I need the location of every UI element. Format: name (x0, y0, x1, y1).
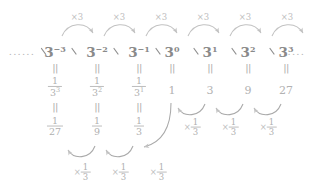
value-3: 3 (207, 85, 214, 96)
equals-top-6: || (245, 63, 251, 73)
fraction-denominator: 31 (132, 86, 146, 98)
power-exponent: 1 (212, 44, 218, 54)
power-base: 3 (203, 44, 212, 60)
power-exponent: −1 (138, 44, 150, 54)
equals-top-2: || (94, 63, 100, 73)
fraction-1-over-3-first: 1 31 (132, 76, 146, 98)
arrow-mul3-3-label: ×3 (155, 13, 168, 22)
power-3-3: 33 (279, 45, 294, 60)
value-numerator: 1 (134, 116, 144, 126)
power-3-neg1: 3−1 (128, 45, 150, 60)
arrow-div3-l3-label: × 1 3 (150, 163, 167, 182)
arrow-div3-u3-label: × 1 3 (184, 118, 201, 137)
fraction-numerator: 1 (48, 76, 62, 86)
power-base: 3 (165, 44, 174, 60)
power-3-0: 30 (165, 45, 180, 60)
text-layer: ...... ...... ×3 ×3 ×3 ×3 ×3 ×3 3−3 3−2 … (0, 0, 315, 194)
power-exponent: −3 (54, 44, 66, 54)
fraction-1-over-3-cubed: 1 33 (48, 76, 62, 98)
equals-top-4: || (169, 63, 175, 73)
fraction-numerator: 1 (90, 76, 104, 86)
arrow-mul3-5-label: ×3 (239, 13, 252, 22)
arrow-mul3-4-label: ×3 (197, 13, 210, 22)
power-3-neg3: 3−3 (44, 45, 66, 60)
value-numerator: 1 (47, 116, 63, 126)
power-3-2: 32 (241, 45, 256, 60)
power-exponent: 2 (250, 44, 256, 54)
power-base: 3 (128, 44, 137, 60)
fraction-1-over-3-squared: 1 32 (90, 76, 104, 98)
arrow-mul3-1-label: ×3 (71, 13, 84, 22)
equals-top-7: || (283, 63, 289, 73)
power-base: 3 (279, 44, 288, 60)
power-exponent: 0 (174, 44, 180, 54)
equals-top-3: || (136, 63, 142, 73)
value-27: 27 (279, 85, 293, 96)
power-3-1: 31 (203, 45, 218, 60)
value-denominator: 3 (134, 126, 144, 137)
value-1-over-3: 1 3 (134, 116, 144, 137)
equals-top-1: || (52, 63, 58, 73)
value-denominator: 9 (92, 126, 102, 137)
arrow-div3-u2-label: × 1 3 (222, 118, 239, 137)
equals-bottom-1: || (52, 102, 58, 112)
power-exponent: −2 (96, 44, 108, 54)
arrow-mul3-2-label: ×3 (113, 13, 126, 22)
value-1: 1 (169, 85, 176, 96)
value-numerator: 1 (92, 116, 102, 126)
arrow-div3-u1-label: × 1 3 (260, 118, 277, 137)
fraction-denominator: 33 (48, 86, 62, 98)
arrow-mul3-6-label: ×3 (281, 13, 294, 22)
fraction-denominator: 32 (90, 86, 104, 98)
value-1-over-9: 1 9 (92, 116, 102, 137)
power-base: 3 (241, 44, 250, 60)
arrow-div3-l2-label: × 1 3 (112, 163, 129, 182)
equals-bottom-2: || (94, 102, 100, 112)
value-9: 9 (245, 85, 252, 96)
powers-of-three-diagram: ...... ...... ×3 ×3 ×3 ×3 ×3 ×3 3−3 3−2 … (0, 0, 315, 194)
power-base: 3 (86, 44, 95, 60)
value-denominator: 27 (47, 126, 63, 137)
leading-ellipsis: ...... (9, 47, 35, 57)
power-3-neg2: 3−2 (86, 45, 108, 60)
arrow-div3-l1-label: × 1 3 (74, 163, 91, 182)
value-1-over-27: 1 27 (47, 116, 63, 137)
equals-top-5: || (207, 63, 213, 73)
power-exponent: 3 (288, 44, 294, 54)
power-base: 3 (44, 44, 53, 60)
fraction-numerator: 1 (132, 76, 146, 86)
equals-bottom-3: || (136, 102, 142, 112)
